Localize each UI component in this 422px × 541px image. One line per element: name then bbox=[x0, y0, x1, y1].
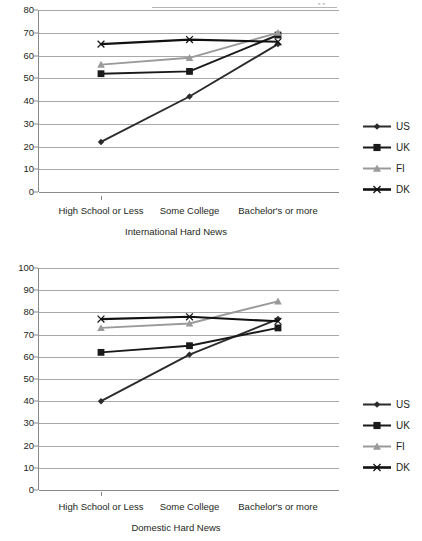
chart-caption-2: Domestic Hard News bbox=[0, 522, 352, 533]
series-fi bbox=[97, 298, 282, 332]
legend-label: US bbox=[396, 400, 410, 410]
x-axis-tick-label: Some College bbox=[160, 502, 220, 512]
series-fi bbox=[97, 29, 282, 68]
plot-area-2: 0102030405060708090100 bbox=[0, 262, 352, 502]
x-axis-tick-label: High School or Less bbox=[58, 206, 143, 216]
figure-page: ▪ ▪ 01020304050607080 High School or Les… bbox=[0, 0, 422, 541]
chart-caption-1: International Hard News bbox=[0, 226, 352, 237]
x-axis-tick-label: Bachelor's or more bbox=[238, 502, 317, 512]
legend-label: US bbox=[396, 122, 410, 132]
legend-label: FI bbox=[396, 442, 405, 452]
legend-marker-diamond-icon bbox=[362, 116, 392, 137]
legend-label: DK bbox=[396, 185, 410, 195]
legend-marker-square-icon bbox=[362, 415, 392, 436]
legend-marker-diamond-icon bbox=[362, 394, 392, 415]
legend-label: FI bbox=[396, 164, 405, 174]
x-axis-tick-mark bbox=[101, 492, 102, 496]
plot-area-1: 01020304050607080 bbox=[0, 0, 352, 205]
legend-label: DK bbox=[396, 463, 410, 473]
series-layer bbox=[0, 262, 352, 504]
x-axis-tick-label: Bachelor's or more bbox=[238, 206, 317, 216]
legend-label: UK bbox=[396, 421, 410, 431]
legend-label: UK bbox=[396, 143, 410, 153]
legend-marker-square-icon bbox=[362, 137, 392, 158]
legend-marker-triangle-icon bbox=[362, 436, 392, 457]
series-layer bbox=[0, 0, 352, 206]
x-axis-tick-label: Some College bbox=[160, 206, 220, 216]
chart-domestic-hard-news: 0102030405060708090100 High School or Le… bbox=[0, 262, 422, 541]
x-axis-tick-label: High School or Less bbox=[58, 502, 143, 512]
legend-marker-cross-icon bbox=[362, 457, 392, 478]
legend-marker-cross-icon bbox=[362, 179, 392, 200]
chart-international-hard-news: 01020304050607080 High School or LessSom… bbox=[0, 0, 422, 250]
x-axis-tick-mark bbox=[101, 196, 102, 200]
legend-marker-triangle-icon bbox=[362, 158, 392, 179]
series-us bbox=[98, 316, 281, 405]
